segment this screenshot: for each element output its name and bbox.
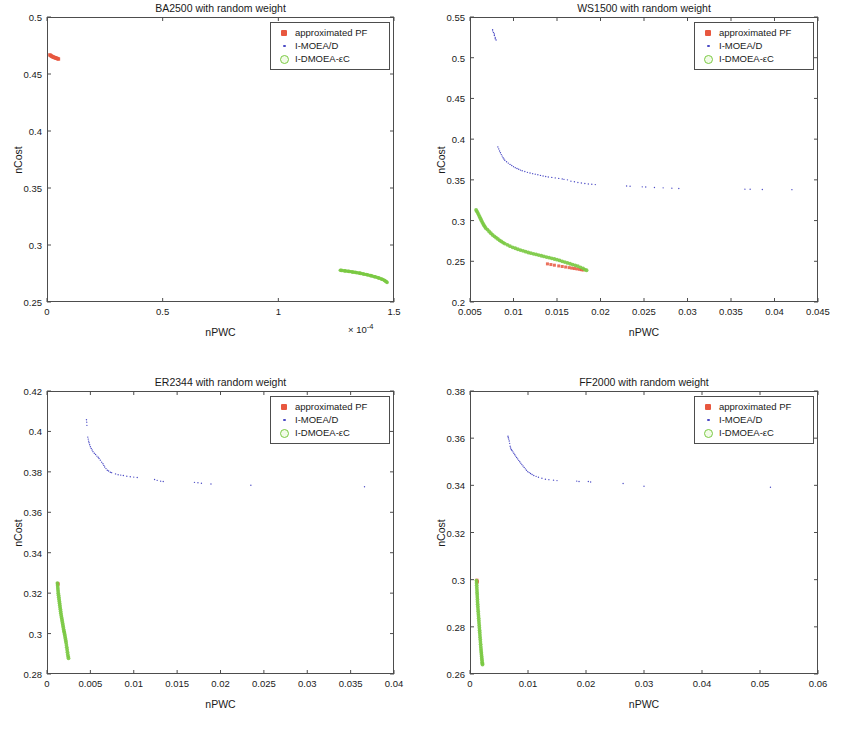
x-tick-label: 0.035 xyxy=(339,678,363,689)
y-tick-label: 0.32 xyxy=(0,588,42,599)
legend-entry[interactable]: I-MOEA/D xyxy=(275,413,384,426)
y-tick-label: 0.3 xyxy=(0,628,42,639)
x-tick-label: 0.005 xyxy=(78,678,102,689)
x-tick-label: 0 xyxy=(44,678,49,689)
y-tick-label: 0.36 xyxy=(423,433,465,444)
legend-label: I-DMOEA-εC xyxy=(717,427,774,438)
chart-legend: approximated PFI-MOEA/DI-DMOEA-εC xyxy=(270,396,390,444)
y-tick-label: 0.35 xyxy=(423,174,465,185)
y-tick-label: 0.3 xyxy=(423,574,465,585)
x-tick-label: 1 xyxy=(276,306,281,317)
y-tick-label: 0.25 xyxy=(423,256,465,267)
x-axis-label: nPWC xyxy=(629,326,659,338)
legend-marker-dot-icon xyxy=(699,414,717,426)
series-circle xyxy=(56,581,71,660)
y-tick-label: 0.3 xyxy=(0,240,42,251)
y-tick-label: 0.28 xyxy=(0,669,42,680)
legend-entry[interactable]: I-DMOEA-εC xyxy=(699,52,808,65)
legend-marker-circle-icon xyxy=(699,427,717,439)
legend-label: approximated PF xyxy=(293,27,367,38)
x-axis-exponent: × 10-4 xyxy=(348,322,373,335)
y-tick-label: 0.25 xyxy=(0,297,42,308)
x-tick-label: 0.015 xyxy=(165,678,189,689)
y-tick-label: 0.4 xyxy=(0,426,42,437)
legend-label: I-DMOEA-εC xyxy=(293,427,350,438)
x-tick-label: 0.005 xyxy=(458,306,482,317)
series-square xyxy=(48,53,60,60)
x-tick-label: 0.02 xyxy=(211,678,230,689)
legend-marker-square-icon xyxy=(275,401,293,413)
legend-entry[interactable]: I-MOEA/D xyxy=(699,39,808,52)
chart-panel-er2344: ER2344 with random weight00.0050.010.015… xyxy=(0,367,422,729)
y-tick-label: 0.2 xyxy=(423,297,465,308)
x-tick-label: 0.045 xyxy=(806,306,830,317)
legend-marker-dot-icon xyxy=(699,40,717,52)
y-tick-label: 0.4 xyxy=(0,126,42,137)
x-tick-label: 0.01 xyxy=(519,678,538,689)
legend-entry[interactable]: I-DMOEA-εC xyxy=(275,426,384,439)
x-tick-label: 0.025 xyxy=(252,678,276,689)
x-tick-label: 0.02 xyxy=(591,306,610,317)
x-tick-label: 1.5 xyxy=(387,306,400,317)
x-tick-label: 0.04 xyxy=(385,678,404,689)
y-tick-label: 0.3 xyxy=(423,215,465,226)
legend-marker-square-icon xyxy=(699,27,717,39)
legend-entry[interactable]: approximated PF xyxy=(275,26,384,39)
x-tick-label: 0.01 xyxy=(504,306,523,317)
y-tick-label: 0.38 xyxy=(423,386,465,397)
legend-entry[interactable]: approximated PF xyxy=(275,400,384,413)
legend-entry[interactable]: approximated PF xyxy=(699,400,808,413)
legend-marker-square-icon xyxy=(699,401,717,413)
chart-legend: approximated PFI-MOEA/DI-DMOEA-εC xyxy=(694,22,814,70)
x-axis-label: nPWC xyxy=(629,698,659,710)
y-axis-label: nCost xyxy=(12,519,24,546)
legend-label: approximated PF xyxy=(717,27,791,38)
y-axis-label: nCost xyxy=(12,146,24,173)
x-tick-label: 0.035 xyxy=(719,306,743,317)
x-tick-label: 0 xyxy=(467,678,472,689)
chart-panel-ff2000: FF2000 with random weight00.010.020.030.… xyxy=(423,367,845,729)
legend-label: I-MOEA/D xyxy=(717,414,762,425)
y-tick-label: 0.35 xyxy=(0,183,42,194)
legend-entry[interactable]: approximated PF xyxy=(699,26,808,39)
chart-panel-ba2500: BA2500 with random weight00.511.50.250.3… xyxy=(0,0,422,366)
legend-label: I-MOEA/D xyxy=(717,40,762,51)
y-tick-label: 0.34 xyxy=(0,547,42,558)
legend-entry[interactable]: I-DMOEA-εC xyxy=(699,426,808,439)
series-circle xyxy=(474,208,588,272)
y-tick-label: 0.26 xyxy=(423,669,465,680)
chart-legend: approximated PFI-MOEA/DI-DMOEA-εC xyxy=(270,22,390,70)
series-circle xyxy=(475,579,485,667)
chart-legend: approximated PFI-MOEA/DI-DMOEA-εC xyxy=(694,396,814,444)
x-tick-label: 0.025 xyxy=(632,306,656,317)
x-tick-label: 0.05 xyxy=(751,678,770,689)
y-axis-label: nCost xyxy=(435,146,447,173)
y-tick-label: 0.36 xyxy=(0,507,42,518)
legend-label: I-DMOEA-εC xyxy=(293,53,350,64)
chart-panel-ws1500: WS1500 with random weight0.0050.010.0150… xyxy=(423,0,845,366)
y-tick-label: 0.5 xyxy=(0,12,42,23)
series-circle xyxy=(339,269,389,285)
figure-canvas: BA2500 with random weight00.511.50.250.3… xyxy=(0,0,845,729)
y-tick-label: 0.4 xyxy=(423,134,465,145)
x-tick-label: 0.06 xyxy=(809,678,828,689)
legend-label: I-DMOEA-εC xyxy=(717,53,774,64)
y-tick-label: 0.45 xyxy=(423,93,465,104)
x-axis-label: nPWC xyxy=(205,698,235,710)
legend-label: approximated PF xyxy=(717,401,791,412)
legend-entry[interactable]: I-MOEA/D xyxy=(275,39,384,52)
y-tick-label: 0.34 xyxy=(423,480,465,491)
legend-marker-dot-icon xyxy=(275,414,293,426)
x-tick-label: 0.5 xyxy=(156,306,169,317)
legend-entry[interactable]: I-DMOEA-εC xyxy=(275,52,384,65)
y-axis-label: nCost xyxy=(435,519,447,546)
x-tick-label: 0.015 xyxy=(545,306,569,317)
legend-label: I-MOEA/D xyxy=(293,40,338,51)
y-tick-label: 0.55 xyxy=(423,12,465,23)
x-tick-label: 0.04 xyxy=(693,678,712,689)
legend-marker-circle-icon xyxy=(275,427,293,439)
x-tick-label: 0 xyxy=(44,306,49,317)
y-tick-label: 0.5 xyxy=(423,52,465,63)
x-tick-label: 0.01 xyxy=(125,678,144,689)
legend-entry[interactable]: I-MOEA/D xyxy=(699,413,808,426)
